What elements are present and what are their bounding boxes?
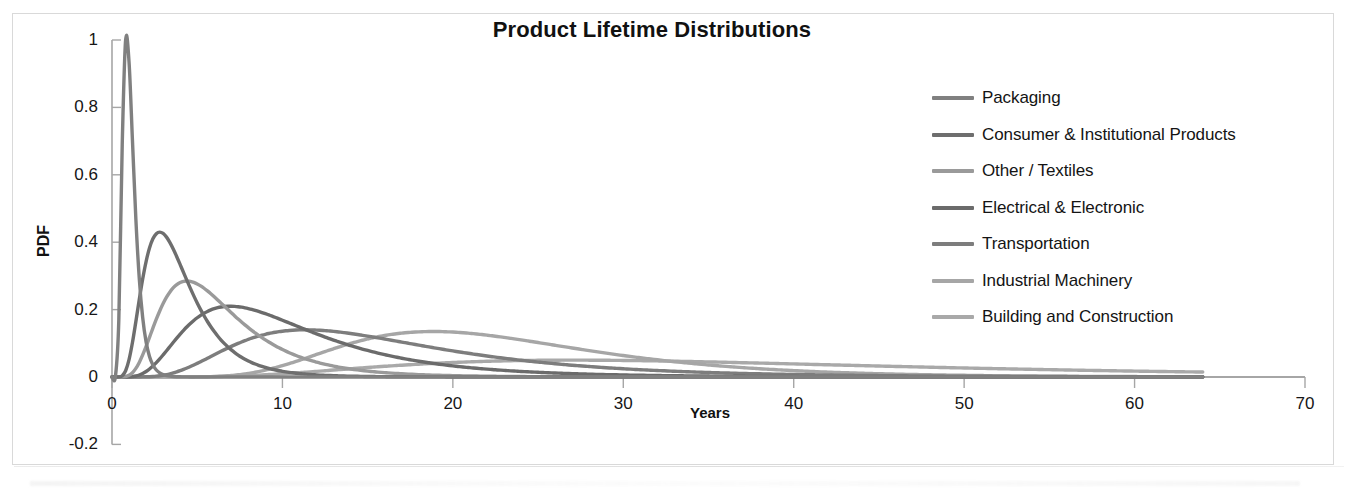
x-tick-label: 50 [934, 395, 994, 412]
y-tick-label: 0.4 [38, 233, 98, 250]
legend-item[interactable]: Transportation [932, 226, 1332, 263]
x-tick-label: 40 [764, 395, 824, 412]
legend-color-swatch [932, 279, 974, 283]
y-tick-label: 1 [38, 31, 98, 48]
y-tick-label: 0.6 [38, 166, 98, 183]
x-tick-label: 0 [82, 395, 142, 412]
figure-container: Product Lifetime Distributions PDF Years… [0, 0, 1348, 492]
legend-item-label: Other / Textiles [982, 161, 1093, 181]
legend-item[interactable]: Electrical & Electronic [932, 190, 1332, 227]
x-tick-label: 70 [1275, 395, 1335, 412]
legend-color-swatch [932, 206, 974, 210]
legend-color-swatch [932, 242, 974, 246]
legend-item[interactable]: Other / Textiles [932, 153, 1332, 190]
legend-item-label: Packaging [982, 88, 1061, 108]
legend-item[interactable]: Building and Construction [932, 299, 1332, 336]
legend-item[interactable]: Packaging [932, 80, 1332, 117]
y-tick-label: 0.2 [38, 301, 98, 318]
x-tick-label: 30 [593, 395, 653, 412]
legend-color-swatch [932, 133, 974, 137]
legend-item-label: Transportation [982, 234, 1090, 254]
y-tick-label: -0.2 [38, 435, 98, 452]
x-tick-label: 10 [252, 395, 312, 412]
legend-color-swatch [932, 315, 974, 319]
legend-item-label: Building and Construction [982, 307, 1173, 327]
legend-item-label: Consumer & Institutional Products [982, 125, 1236, 145]
legend-color-swatch [932, 169, 974, 173]
y-tick-label: 0.8 [38, 98, 98, 115]
y-tick-label: 0 [38, 368, 98, 385]
legend-item-label: Industrial Machinery [982, 271, 1132, 291]
legend-item[interactable]: Consumer & Institutional Products [932, 117, 1332, 154]
x-tick-label: 20 [423, 395, 483, 412]
legend-item[interactable]: Industrial Machinery [932, 263, 1332, 300]
x-tick-label: 60 [1105, 395, 1165, 412]
chart-legend: PackagingConsumer & Institutional Produc… [932, 80, 1332, 336]
legend-color-swatch [932, 96, 974, 100]
legend-item-label: Electrical & Electronic [982, 198, 1144, 218]
